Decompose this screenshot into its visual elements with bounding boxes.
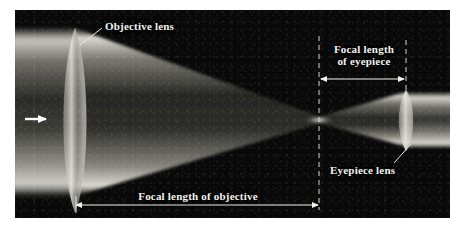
focal-length-eyepiece-label-line2: of eyepiece [337, 55, 390, 67]
focal-length-eyepiece-label-line1: Focal length [334, 43, 394, 55]
diagram-panel: Objective lens Focal length of eyepiece … [15, 10, 450, 218]
telescope-ray-diagram-figure: Objective lens Focal length of eyepiece … [0, 0, 466, 233]
eyepiece-lens-label: Eyepiece lens [330, 164, 395, 176]
focal-length-objective-label: Focal length of objective [77, 190, 319, 202]
eyepiece-lens-leader-line [394, 144, 411, 163]
objective-lens-leader-line [80, 28, 102, 45]
focal-length-eyepiece-label: Focal length of eyepiece [318, 43, 410, 67]
annotation-layer [15, 10, 450, 218]
objective-lens-label: Objective lens [105, 20, 174, 32]
